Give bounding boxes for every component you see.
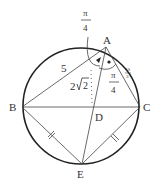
point-label-E: E	[77, 168, 84, 180]
svg-text:3: 3	[126, 74, 129, 79]
svg-text:π: π	[83, 8, 88, 18]
svg-text:4: 4	[83, 23, 88, 33]
angle-arc-right	[99, 64, 116, 69]
point-label-B: B	[9, 101, 16, 113]
circumcircle	[23, 48, 139, 164]
point-label-A: A	[103, 34, 111, 46]
svg-text:2: 2	[70, 80, 76, 92]
point-label-D: D	[95, 111, 103, 123]
svg-text:π: π	[111, 70, 116, 80]
point-label-C: C	[143, 101, 150, 113]
segment-AB	[22, 47, 106, 107]
length-label-AC: 10 3	[125, 67, 131, 79]
length-label-AB: 5	[61, 62, 67, 74]
angle-label-right: π 4	[109, 70, 119, 95]
svg-text:10: 10	[125, 67, 131, 72]
angle-label-top: π 4	[81, 8, 91, 33]
dotted-altitude	[91, 70, 92, 104]
geometry-diagram: A B C D E 5 2 2 10 3 π 4 π 4	[0, 0, 158, 190]
angle-mark-filled	[96, 57, 101, 63]
length-label-AD: 2 2	[70, 78, 89, 92]
angle-mark-dot	[107, 60, 110, 63]
svg-text:2: 2	[83, 80, 88, 91]
svg-text:4: 4	[111, 85, 116, 95]
